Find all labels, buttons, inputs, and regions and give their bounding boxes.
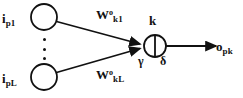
neuron-threshold-label: γ <box>138 52 144 68</box>
input-label-first: ip1 <box>2 10 16 28</box>
edge-input1-to-neuron <box>57 22 141 45</box>
output-label: opk <box>216 38 233 56</box>
output-label-sub: pk <box>223 46 233 56</box>
neuron-diagram: ip1 ipL Wok1 WokL k γ δ opk <box>0 0 243 98</box>
neuron-index-label: k <box>149 12 156 28</box>
ellipsis-dot <box>43 57 46 60</box>
input-ellipsis <box>41 38 47 60</box>
input-label-last: ipL <box>2 70 17 88</box>
neuron-index-label-text: k <box>149 13 156 28</box>
ellipsis-dot <box>43 48 46 51</box>
input-label-last-sub: pL <box>6 78 17 88</box>
weight-label-last-sub: kL <box>113 74 124 84</box>
weight-label-first: Wok1 <box>96 6 123 24</box>
weight-label-first-base: W <box>96 7 109 22</box>
weight-label-last-base: W <box>96 67 109 82</box>
weight-label-last: WokL <box>96 66 124 84</box>
weight-label-first-sub: k1 <box>113 14 123 24</box>
input-label-first-sub: p1 <box>6 18 16 28</box>
ellipsis-dot <box>43 38 46 41</box>
input-node-L-circle <box>31 64 57 90</box>
neuron-slope-label: δ <box>160 52 166 68</box>
input-node-1-circle <box>31 4 57 30</box>
neuron-slope-label-text: δ <box>160 54 166 68</box>
neuron-threshold-label-text: γ <box>138 54 144 68</box>
